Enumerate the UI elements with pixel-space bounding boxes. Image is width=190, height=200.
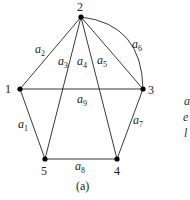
side-text-fragment: a [184, 94, 190, 108]
vertex-label-5: 5 [41, 164, 47, 178]
graph-diagram: a1a2a3a4a5a6a7a8a912345 (a) a e l [0, 0, 190, 200]
edge-label-a8: a8 [75, 159, 85, 175]
vertex-1 [17, 86, 22, 91]
edge-label-a6: a6 [132, 37, 142, 53]
vertex-label-2: 2 [77, 0, 83, 14]
edge-label-a7: a7 [133, 113, 143, 129]
edge-label-a3: a3 [58, 54, 68, 70]
vertex-5 [42, 156, 47, 161]
edge-label-a1: a1 [18, 117, 28, 133]
vertex-label-1: 1 [5, 82, 11, 96]
edge-label-a9: a9 [77, 92, 87, 108]
edge-label-a2: a2 [35, 42, 45, 58]
vertex-4 [114, 156, 119, 161]
edge-label-a5: a5 [97, 53, 107, 69]
side-text-fragment: e [183, 110, 189, 124]
edge-label-a4: a4 [77, 54, 87, 70]
vertex-label-3: 3 [148, 83, 154, 97]
vertex-3 [140, 86, 145, 91]
vertex-label-4: 4 [114, 164, 120, 178]
figure-caption: (a) [76, 179, 89, 193]
side-text-fragment: l [184, 126, 188, 140]
vertex-2 [78, 14, 83, 19]
